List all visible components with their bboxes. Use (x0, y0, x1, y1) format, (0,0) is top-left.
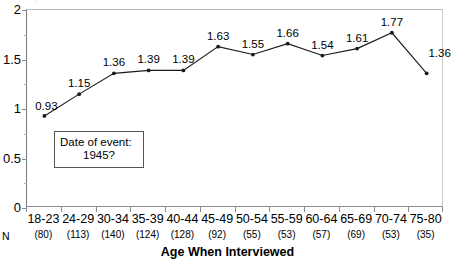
n-value: (124) (136, 229, 159, 241)
n-value: (53) (382, 229, 400, 241)
n-row-title: N (2, 230, 10, 242)
y-axis-tick-label: 0.5 (3, 151, 21, 164)
data-point-label: 0.93 (35, 100, 57, 112)
n-value: (35) (417, 229, 435, 241)
x-axis-category-label: 55-59 (271, 212, 303, 226)
y-axis-tick-label: 2 (14, 3, 21, 16)
series-polyline (44, 33, 426, 116)
data-point-marker (320, 54, 324, 58)
annotation-line-1: Date of event: (60, 136, 138, 149)
x-axis-category-label: 50-54 (236, 212, 268, 226)
data-point-marker (286, 42, 290, 46)
x-axis-category-label: 60-64 (305, 212, 337, 226)
data-point-marker (355, 47, 359, 51)
plot-area: 0.931.151.361.391.391.631.551.661.541.61… (26, 9, 443, 207)
data-point-marker (77, 92, 81, 96)
data-point-label: 1.39 (137, 54, 159, 66)
n-value: (69) (347, 229, 365, 241)
n-row-values: (80)(113)(140)(124)(128)(92)(55)(53)(57)… (26, 229, 443, 243)
x-axis-category-label: 75-80 (410, 212, 442, 226)
data-point-marker (147, 68, 151, 72)
n-value: (53) (278, 229, 296, 241)
data-point-label: 1.55 (242, 38, 264, 50)
y-axis-tick-label: 1.5 (3, 52, 21, 65)
data-point-marker (425, 71, 429, 75)
x-axis-category-label: 30-34 (97, 212, 129, 226)
data-point-marker (390, 31, 394, 35)
y-axis-tick-label: 1 (14, 102, 21, 115)
n-value: (55) (243, 229, 261, 241)
data-point-label: 1.77 (381, 16, 403, 28)
data-point-label: 1.61 (346, 32, 368, 44)
y-axis-tick-labels: 00.511.52 (0, 0, 26, 265)
data-point-label: 1.66 (276, 27, 298, 39)
x-axis-category-label: 18-23 (27, 212, 59, 226)
data-point-label: 1.39 (172, 54, 194, 66)
data-point-marker (251, 53, 255, 57)
x-axis-category-label: 24-29 (62, 212, 94, 226)
n-value: (128) (171, 229, 194, 241)
annotation-line-2: 1945? (60, 149, 138, 162)
data-point-marker (42, 114, 46, 118)
n-value: (140) (101, 229, 124, 241)
n-value: (57) (312, 229, 330, 241)
data-point-marker (181, 68, 185, 72)
x-axis-category-labels: 18-2324-2930-3435-3940-4445-4950-5455-59… (26, 212, 443, 228)
data-point-marker (216, 45, 220, 49)
x-axis-category-label: 35-39 (132, 212, 164, 226)
x-axis-title: Age When Interviewed (0, 245, 455, 260)
data-point-label: 1.15 (68, 78, 90, 90)
x-axis-category-label: 45-49 (201, 212, 233, 226)
annotation-callout: Date of event: 1945? (54, 131, 144, 168)
data-point-label: 1.36 (103, 57, 125, 69)
x-axis-category-label: 40-44 (166, 212, 198, 226)
n-value: (80) (34, 229, 52, 241)
n-value: (92) (208, 229, 226, 241)
n-value: (113) (67, 229, 90, 241)
y-axis-tick-label: 0 (14, 201, 21, 214)
x-axis-category-label: 65-69 (340, 212, 372, 226)
chart-figure: . 00.511.52 0.931.151.361.391.391.631.55… (0, 0, 455, 265)
data-point-label: 1.54 (311, 39, 333, 51)
clipped-title-fragment: . (34, 0, 37, 4)
data-point-label: 1.63 (207, 30, 229, 42)
x-axis-category-label: 70-74 (375, 212, 407, 226)
data-point-marker (112, 71, 116, 75)
data-point-label: 1.36 (428, 48, 450, 60)
line-series (27, 10, 444, 208)
